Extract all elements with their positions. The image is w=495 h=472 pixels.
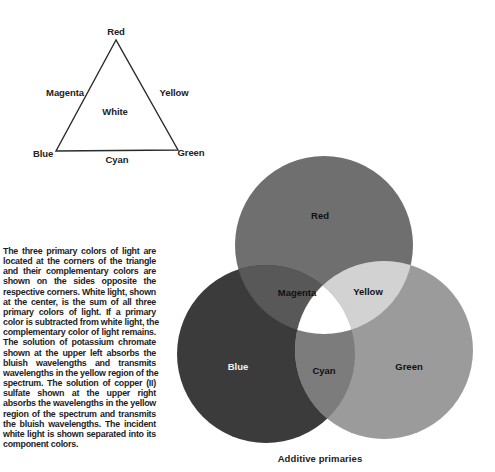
venn-caption: Additive primaries <box>278 453 363 464</box>
description-line: absorbs the wavelengths in the yellow <box>3 398 156 408</box>
description-line: shown on the sides opposite the <box>3 276 156 286</box>
venn-label-yellow: Yellow <box>353 286 383 297</box>
description-line: The three primary colors of light are <box>3 246 156 256</box>
triangle-vertex-red: Red <box>107 26 125 37</box>
description-line: and their complementary colors are <box>3 266 156 276</box>
venn-label-blue: Blue <box>228 361 249 372</box>
description-line: complementary color of light remains. <box>3 327 156 337</box>
description-line: located at the corners of the triangle <box>3 256 156 266</box>
description-line: region of the spectrum and transmits <box>3 409 156 419</box>
triangle-side-magenta: Magenta <box>46 87 84 98</box>
triangle-center-white: White <box>102 106 127 117</box>
description-line: wavelengths in the yellow region of the <box>3 368 156 378</box>
description-line: sulfate shown at the upper right <box>3 388 156 398</box>
description-line: color is subtracted from white light, th… <box>3 317 156 327</box>
venn-label-red: Red <box>311 210 329 221</box>
description-paragraph: The three primary colors of light are lo… <box>3 246 156 449</box>
triangle-vertex-blue: Blue <box>33 148 53 159</box>
triangle-side-yellow: Yellow <box>160 87 189 98</box>
venn-label-cyan: Cyan <box>312 365 335 376</box>
additive-venn-diagram <box>177 156 473 443</box>
venn-label-magenta: Magenta <box>278 287 317 298</box>
description-line: respective corners. White light, shown <box>3 287 156 297</box>
description-line: the bluish wavelengths. The incident <box>3 419 156 429</box>
description-line: white light is shown separated into its <box>3 429 156 439</box>
description-line: primary colors of light. If a primary <box>3 307 156 317</box>
description-line: spectrum. The solution of copper (II) <box>3 378 156 388</box>
description-line: bluish wavelengths and transmits <box>3 358 156 368</box>
description-line: at the center, is the sum of all three <box>3 297 156 307</box>
description-line: The solution of potassium chromate <box>3 337 156 347</box>
triangle-side-cyan: Cyan <box>106 154 129 165</box>
description-line: component colors. <box>3 439 156 449</box>
description-line: shown at the upper left absorbs the <box>3 348 156 358</box>
venn-label-green: Green <box>395 361 422 372</box>
triangle-vertex-green: Green <box>178 147 205 158</box>
